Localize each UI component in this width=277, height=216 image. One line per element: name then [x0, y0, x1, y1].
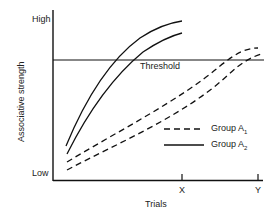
x-axis-label: Trials — [145, 199, 167, 209]
legend-sub-a2: 2 — [244, 145, 247, 151]
legend-sub-a1: 1 — [244, 129, 247, 135]
chart-canvas — [0, 0, 277, 216]
legend-label-a1: Group A — [211, 123, 244, 133]
group-a1-lower-curve — [67, 54, 262, 170]
legend-item-a2: Group A2 — [211, 139, 247, 151]
y-tick-high: High — [32, 14, 51, 24]
threshold-label: Threshold — [140, 61, 180, 71]
legend-item-a1: Group A1 — [211, 123, 247, 135]
x-tick-label-X: X — [179, 185, 185, 195]
y-tick-low: Low — [32, 168, 49, 178]
x-tick-label-Y: Y — [255, 185, 261, 195]
y-axis-label: Associative strength — [16, 61, 26, 142]
legend-label-a2: Group A — [211, 139, 244, 149]
